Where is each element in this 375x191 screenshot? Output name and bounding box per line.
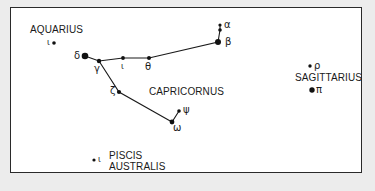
- star-cap-zeta: [117, 90, 121, 94]
- greek-cap-beta: β: [225, 37, 231, 47]
- star-aqr-iota: [52, 41, 56, 45]
- star-cap-theta: [147, 56, 151, 60]
- greek-cap-alpha: α: [224, 20, 231, 30]
- greek-cap-psi: ψ: [183, 105, 190, 115]
- label-capricornus: CAPRICORNUS: [149, 86, 224, 97]
- star-cap-delta: [82, 53, 89, 60]
- label-australis: AUSTRALIS: [109, 161, 165, 172]
- label-sagittarius: SAGITTARIUS: [295, 72, 362, 83]
- greek-psa-iota: ι: [98, 155, 101, 165]
- star-cap-beta: [215, 39, 221, 45]
- star-sgr-pi: [309, 87, 314, 92]
- greek-cap-zeta: ζ: [110, 86, 115, 96]
- label-piscis: PISCIS: [109, 150, 142, 161]
- star-cap-alpha2: [218, 28, 222, 32]
- label-aquarius: AQUARIUS: [30, 24, 83, 35]
- greek-cap-gamma: γ: [94, 64, 100, 74]
- star-psa-iota: [92, 158, 95, 161]
- greek-cap-omega: ω: [173, 123, 181, 133]
- greek-sgr-rho: ρ: [314, 61, 320, 71]
- star-cap-psi: [177, 109, 181, 113]
- star-sgr-rho: [308, 64, 311, 67]
- greek-sgr-pi: π: [316, 85, 322, 95]
- greek-aqr-iota: ι: [47, 38, 50, 48]
- greek-cap-iota: ι: [121, 62, 124, 72]
- greek-cap-delta: δ: [74, 51, 80, 61]
- star-cap-iota: [121, 56, 125, 60]
- star-cap-alpha1: [218, 23, 221, 26]
- greek-cap-theta: θ: [145, 62, 151, 72]
